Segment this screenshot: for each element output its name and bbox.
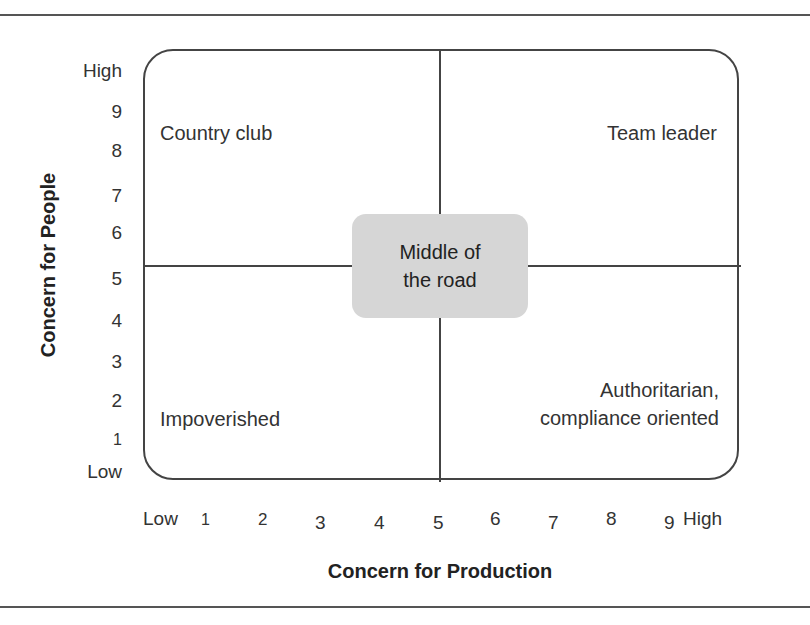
y-tick: 2: [111, 390, 122, 412]
quadrant-team-leader: Team leader: [607, 119, 717, 147]
x-tick: 2: [258, 510, 267, 530]
quadrant-middle-of-the-road: Middle of the road: [352, 214, 528, 318]
x-tick: 7: [548, 512, 559, 534]
y-tick: 7: [111, 185, 122, 207]
quadrant-authoritarian-line1: Authoritarian,: [540, 376, 719, 404]
y-tick: Low: [87, 461, 122, 483]
y-tick: 6: [111, 222, 122, 244]
x-tick: 4: [374, 512, 385, 534]
quadrant-authoritarian-line2: compliance oriented: [540, 404, 719, 432]
y-tick: 8: [111, 140, 122, 162]
middle-line1: Middle of: [399, 238, 480, 266]
x-tick: High: [683, 508, 722, 530]
y-tick: 3: [111, 351, 122, 373]
y-tick: 1: [113, 431, 122, 449]
x-tick: 9: [664, 512, 675, 534]
x-tick: 6: [490, 508, 501, 530]
quadrant-authoritarian: Authoritarian, compliance oriented: [540, 376, 719, 432]
y-tick: 5: [111, 268, 122, 290]
x-tick: Low: [143, 508, 178, 530]
y-axis-label: Concern for People: [37, 173, 60, 357]
quadrant-impoverished: Impoverished: [160, 405, 280, 433]
x-tick: 5: [433, 512, 444, 534]
y-tick: 9: [111, 101, 122, 123]
x-tick: 3: [315, 512, 326, 534]
x-tick: 1: [201, 511, 210, 529]
middle-line2: the road: [403, 266, 476, 294]
y-tick: High: [83, 60, 122, 82]
x-tick: 8: [606, 508, 617, 530]
quadrant-country-club: Country club: [160, 119, 272, 147]
y-tick: 4: [111, 310, 122, 332]
x-axis-label: Concern for Production: [328, 560, 552, 583]
y-ticks: High 9 8 7 6 5 4 3 2 1 Low: [60, 0, 122, 625]
